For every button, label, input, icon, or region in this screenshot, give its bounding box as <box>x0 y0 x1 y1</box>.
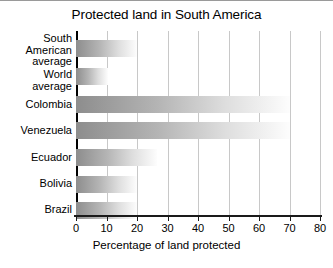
chart-figure: Protected land in South America South Am… <box>0 0 333 268</box>
x-tick-label-40: 40 <box>186 222 210 234</box>
x-tick-label-70: 70 <box>278 222 302 234</box>
gridline-70 <box>290 31 291 216</box>
x-tick-label-0: 0 <box>64 222 88 234</box>
x-tick-80 <box>320 217 321 221</box>
bar-bolivia <box>76 176 137 193</box>
category-label-venezuela: Venezuela <box>21 125 72 137</box>
x-tick-label-30: 30 <box>156 222 180 234</box>
category-label-world-average: World average <box>32 69 72 92</box>
x-tick-label-50: 50 <box>217 222 241 234</box>
category-label-south-american-average: South American average <box>26 33 72 68</box>
bar-row <box>76 122 290 139</box>
bar-venezuela <box>76 122 290 139</box>
category-label-brazil: Brazil <box>44 204 72 216</box>
chart-title: Protected land in South America <box>0 7 333 22</box>
x-tick-label-80: 80 <box>308 222 332 234</box>
x-tick-10 <box>107 217 108 221</box>
x-axis-title: Percentage of land protected <box>0 239 333 251</box>
x-tick-40 <box>198 217 199 221</box>
x-tick-60 <box>259 217 260 221</box>
category-label-bolivia: Bolivia <box>40 178 72 190</box>
bar-row <box>76 149 157 166</box>
category-label-ecuador: Ecuador <box>31 152 72 164</box>
bar-row <box>76 40 137 57</box>
bar-row <box>76 176 137 193</box>
bar-south-american-average <box>76 40 137 57</box>
x-tick-label-60: 60 <box>247 222 271 234</box>
x-tick-70 <box>290 217 291 221</box>
x-tick-50 <box>229 217 230 221</box>
bar-world-average <box>76 68 108 85</box>
x-tick-label-10: 10 <box>95 222 119 234</box>
plot-area <box>76 31 320 216</box>
category-label-colombia: Colombia <box>26 99 72 111</box>
x-tick-20 <box>137 217 138 221</box>
gridline-80 <box>320 31 321 216</box>
bar-ecuador <box>76 149 157 166</box>
bar-colombia <box>76 96 290 113</box>
bar-row <box>76 68 108 85</box>
x-tick-0 <box>76 217 77 221</box>
bar-row <box>76 96 290 113</box>
x-tick-30 <box>168 217 169 221</box>
x-tick-label-20: 20 <box>125 222 149 234</box>
